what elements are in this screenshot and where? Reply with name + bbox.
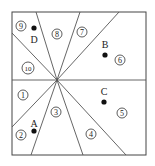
svg-text:4: 4 — [89, 130, 93, 139]
svg-text:7: 7 — [80, 28, 84, 37]
svg-text:3: 3 — [54, 108, 58, 117]
region-marker-6: 6 — [115, 55, 125, 65]
ray-bottom-right — [57, 80, 126, 155]
region-marker-8: 8 — [52, 29, 62, 39]
svg-text:6: 6 — [118, 56, 122, 65]
svg-text:A: A — [30, 118, 38, 129]
point-a: A — [30, 118, 38, 134]
point-d: D — [30, 25, 37, 45]
svg-text:8: 8 — [55, 30, 59, 39]
region-marker-3: 3 — [51, 107, 61, 117]
ray-top-middle — [57, 12, 80, 80]
svg-text:2: 2 — [19, 131, 23, 140]
point-b: B — [102, 39, 109, 58]
region-marker-10: 10 — [22, 62, 34, 74]
svg-text:10: 10 — [25, 65, 33, 73]
region-marker-7: 7 — [77, 27, 87, 37]
region-marker-5: 5 — [117, 108, 127, 118]
ray-top-left — [36, 12, 57, 80]
svg-text:5: 5 — [120, 109, 124, 118]
svg-text:C: C — [101, 86, 108, 97]
region-marker-1: 1 — [18, 90, 28, 100]
region-marker-4: 4 — [86, 129, 96, 139]
partition-diagram: 1 2 3 4 5 6 7 8 9 10 A B — [0, 0, 155, 166]
point-c: C — [101, 86, 108, 105]
svg-text:B: B — [102, 39, 109, 50]
svg-text:1: 1 — [21, 91, 25, 100]
ray-bottom-middle — [57, 80, 83, 155]
svg-text:D: D — [30, 34, 37, 45]
region-marker-9: 9 — [16, 21, 26, 31]
svg-text:9: 9 — [19, 22, 23, 31]
ray-top-right — [57, 12, 119, 80]
region-marker-2: 2 — [16, 130, 26, 140]
